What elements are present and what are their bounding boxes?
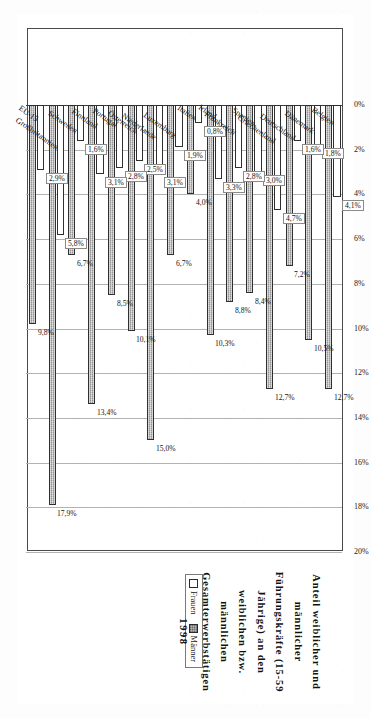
x-tick-label-14: 14% [354, 413, 369, 422]
value-label-frauen: 2,8% [125, 171, 147, 182]
chart-row: 1,6%7,2% [283, 105, 303, 552]
value-label-maenner: 10,3% [216, 339, 236, 348]
plot-area: 0%2%4%6%8%10%12%14%16%18%20%4,1%12,7%1,8… [26, 105, 342, 552]
chart-row: 2,8%8,8% [224, 105, 244, 552]
value-label-frauen: 3,3% [224, 182, 246, 193]
value-label-frauen: 2,5% [145, 164, 167, 175]
chart-row: 3,3%10,3% [204, 105, 224, 552]
chart-title-line-1: Anteil weiblicher und männlicher Führung… [252, 566, 326, 698]
bar-maenner-spanien [246, 105, 253, 293]
bar-maenner--sterreich [128, 105, 135, 331]
value-label-frauen: 2,8% [243, 171, 265, 182]
x-tick-label-6: 6% [354, 234, 365, 243]
chart-title: Anteil weiblicher und männlicher Führung… [174, 566, 325, 698]
x-tick-label-10: 10% [354, 324, 369, 333]
value-label-frauen: 1,6% [85, 144, 107, 155]
value-label-frauen: 3,1% [105, 177, 127, 188]
value-label-frauen: 2,9% [46, 173, 68, 184]
bar-maenner-irland [207, 105, 214, 335]
value-label-maenner: 7,2% [295, 270, 311, 279]
gridline-20 [26, 552, 342, 553]
value-label-maenner: 6,7% [77, 259, 93, 268]
value-label-maenner: 12,7% [334, 393, 354, 402]
chart-row: 3,1%13,4% [85, 105, 105, 552]
value-label-maenner: 10,1% [137, 335, 157, 344]
x-tick-label-0: 0% [354, 100, 365, 109]
value-label-maenner: 4,0% [196, 198, 212, 207]
value-label-maenner: 9,8% [38, 328, 54, 337]
x-tick-label-20: 20% [354, 547, 369, 556]
value-label-maenner: 8,8% [235, 306, 251, 315]
value-label-maenner: 6,7% [176, 259, 192, 268]
chart-title-year: 1998 [174, 566, 192, 698]
value-label-maenner: 8,5% [117, 299, 133, 308]
x-tick-label-2: 2% [354, 145, 365, 154]
bar-maenner-niederlande [147, 105, 154, 440]
x-tick-label-18: 18% [354, 502, 369, 511]
value-label-frauen: 3,0% [263, 175, 285, 186]
value-label-frauen: 1,6% [303, 144, 325, 155]
x-tick-label-12: 12% [354, 368, 369, 377]
value-label-maenner: 10,5% [314, 344, 334, 353]
value-label-frauen: 1,8% [322, 148, 344, 159]
value-label-maenner: 17,9% [58, 509, 78, 518]
chart-row: 2,8%8,5% [105, 105, 125, 552]
bar-maenner-portugal [108, 105, 115, 295]
value-label-maenner: 12,7% [275, 393, 295, 402]
value-label-frauen: 1,9% [184, 150, 206, 161]
rotated-figure-wrapper: 0%2%4%6%8%10%12%14%16%18%20%4,1%12,7%1,8… [0, 0, 371, 719]
chart-row: 2,9%9,8% [26, 105, 46, 552]
value-label-maenner: 15,0% [156, 444, 176, 453]
x-tick-label-8: 8% [354, 279, 365, 288]
x-tick-label-16: 16% [354, 458, 369, 467]
chart-row: 4,1%12,7% [322, 105, 342, 552]
value-label-frauen: 5,8% [66, 238, 88, 249]
value-label-frauen: 3,1% [164, 177, 186, 188]
x-tick-label-4: 4% [354, 189, 365, 198]
chart-row: 4,7%12,7% [263, 105, 283, 552]
value-label-maenner: 8,4% [255, 297, 271, 306]
bar-maenner-griechenland [266, 105, 273, 389]
chart-title-line-2: weiblichen bzw. männlichen Gesamterwerbs… [196, 566, 251, 698]
value-label-frauen: 4,1% [342, 200, 364, 211]
bar-maenner-d-nemark [305, 105, 312, 340]
chart-row: 1,8%10,5% [303, 105, 323, 552]
scanned-page: 0%2%4%6%8%10%12%14%16%18%20%4,1%12,7%1,8… [0, 0, 371, 719]
bar-maenner-gro-britannien [49, 105, 56, 505]
chart-row: 1,9%6,7% [164, 105, 184, 552]
value-label-maenner: 13,4% [97, 408, 117, 417]
chart-row: 0,8%4,0% [184, 105, 204, 552]
chart-figure: 0%2%4%6%8%10%12%14%16%18%20%4,1%12,7%1,8… [17, 14, 353, 704]
chart-row: 1,6%6,7% [66, 105, 86, 552]
value-label-frauen: 4,7% [283, 213, 305, 224]
